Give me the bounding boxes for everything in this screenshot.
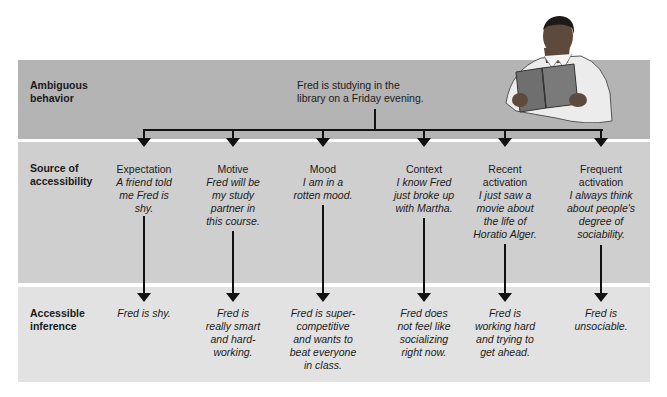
- source-example: I always think about people's degree of …: [556, 189, 646, 241]
- source-expectation: Expectation A friend told me Fred is shy…: [99, 163, 189, 215]
- row-label-accessible-inference: Accessible inference: [30, 307, 85, 333]
- source-name: Expectation: [99, 163, 189, 176]
- inference-frequent-activation: Fred is unsociable.: [556, 307, 646, 333]
- source-example: I know Fred just broke up with Martha.: [379, 176, 469, 215]
- source-example: A friend told me Fred is shy.: [99, 176, 189, 215]
- down-line-context: [423, 218, 425, 295]
- arrowhead-icon: [316, 138, 330, 147]
- arrowhead-icon: [417, 138, 431, 147]
- arrowhead-icon: [594, 293, 608, 302]
- row-label-source-of-accessibility: Source of accessibility: [30, 162, 92, 188]
- arrowhead-icon: [594, 138, 608, 147]
- row-label-ambiguous-behavior: Ambiguous behavior: [30, 79, 88, 105]
- source-name: Frequent activation: [556, 163, 646, 189]
- arrowhead-icon: [137, 293, 151, 302]
- arrowhead-icon: [498, 293, 512, 302]
- down-line-motive: [232, 231, 234, 295]
- source-name: Motive: [188, 163, 278, 176]
- arrowhead-icon: [226, 293, 240, 302]
- source-name: Context: [379, 163, 469, 176]
- inference-expectation: Fred is shy.: [99, 307, 189, 320]
- source-name: Mood: [278, 163, 368, 176]
- down-line-expectation: [143, 216, 145, 295]
- source-frequent-activation: Frequent activation I always think about…: [556, 163, 646, 241]
- arrowhead-icon: [417, 293, 431, 302]
- arrowhead-icon: [137, 138, 151, 147]
- source-example: I just saw a movie about the life of Hor…: [460, 189, 550, 241]
- man-reading-book-illustration: [486, 8, 621, 123]
- down-line-mood: [322, 205, 324, 295]
- behavior-text: Fred is studying in the library on a Fri…: [297, 79, 424, 105]
- inference-recent-activation: Fred is working hard and trying to get a…: [460, 307, 550, 359]
- source-recent-activation: Recent activation I just saw a movie abo…: [460, 163, 550, 241]
- arrowhead-icon: [316, 293, 330, 302]
- down-line-frequent-activation: [600, 245, 602, 295]
- branch-bar-line: [143, 129, 603, 131]
- source-context: Context I know Fred just broke up with M…: [379, 163, 469, 215]
- source-name: Recent activation: [460, 163, 550, 189]
- inference-context: Fred does not feel like socializing righ…: [379, 307, 469, 359]
- source-mood: Mood I am in a rotten mood.: [278, 163, 368, 202]
- inference-motive: Fred is really smart and hard- working.: [188, 307, 278, 359]
- behavior-stem-line: [374, 109, 376, 130]
- source-example: I am in a rotten mood.: [278, 176, 368, 202]
- down-line-recent-activation: [504, 244, 506, 295]
- arrowhead-icon: [498, 138, 512, 147]
- arrowhead-icon: [226, 138, 240, 147]
- source-example: Fred will be my study partner in this co…: [188, 176, 278, 228]
- inference-mood: Fred is super- competitive and wants to …: [278, 307, 368, 372]
- source-motive: Motive Fred will be my study partner in …: [188, 163, 278, 228]
